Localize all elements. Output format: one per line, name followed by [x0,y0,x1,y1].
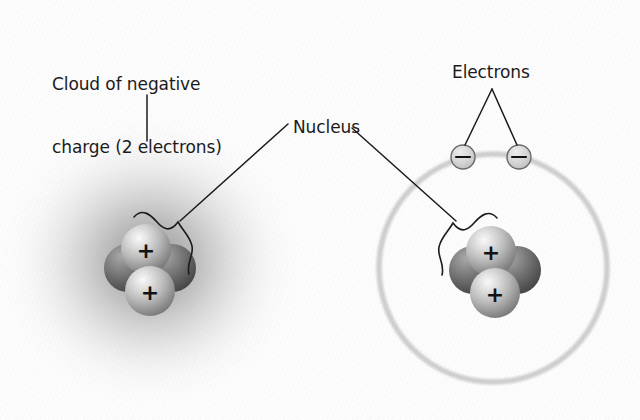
electron-right [507,145,531,169]
label-nucleus: Nucleus [293,117,360,138]
label-electrons: Electrons [452,62,530,83]
electrons-leader-left [465,89,492,145]
proton-charge-glyph: + [486,282,504,307]
figure-canvas: + + + + [0,0,640,420]
label-cloud-of-negative-charge: Cloud of negative charge (2 electrons) [52,32,222,200]
right-nucleus: + + [449,226,541,318]
proton-bottom: + [125,266,175,316]
electrons-leader-right [492,89,517,145]
proton-bottom: + [470,268,520,318]
proton-charge-glyph: + [141,280,159,305]
proton-charge-glyph: + [482,240,500,265]
electron-left [451,145,475,169]
label-cloud-line-1: Cloud of negative [52,74,222,95]
proton-charge-glyph: + [137,238,155,263]
right-atom-bohr-orbit-model: + + [379,145,607,382]
nucleus-leader-right [352,128,456,221]
label-cloud-line-2: charge (2 electrons) [52,137,222,158]
